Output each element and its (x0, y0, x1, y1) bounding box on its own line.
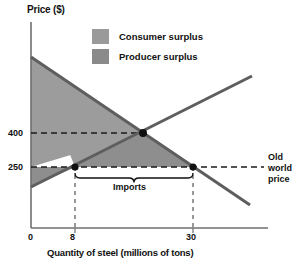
y-tick-label-400: 400 (8, 128, 23, 138)
old-world-price-line2: price (268, 174, 305, 185)
y-tick-label-250: 250 (8, 162, 23, 172)
x-axis-title: Quantity of steel (millions of tons) (47, 247, 193, 258)
x-tick-label-8: 8 (70, 232, 75, 242)
chart-figure: Price ($) Consumer surplus Producer surp… (0, 0, 305, 266)
x-tick-label-30: 30 (186, 232, 196, 242)
x-tick-label-0: 0 (28, 232, 33, 242)
marker-domestic-demand-q30 (189, 163, 196, 170)
chart-plot-area (0, 0, 305, 266)
marker-domestic-supply-q8 (71, 163, 78, 170)
old-world-price-line1: Old world (268, 152, 305, 174)
marker-autarky-equilibrium (139, 129, 147, 137)
imports-annotation-label: Imports (113, 182, 146, 192)
old-world-price-annotation: Old world price (268, 152, 305, 185)
